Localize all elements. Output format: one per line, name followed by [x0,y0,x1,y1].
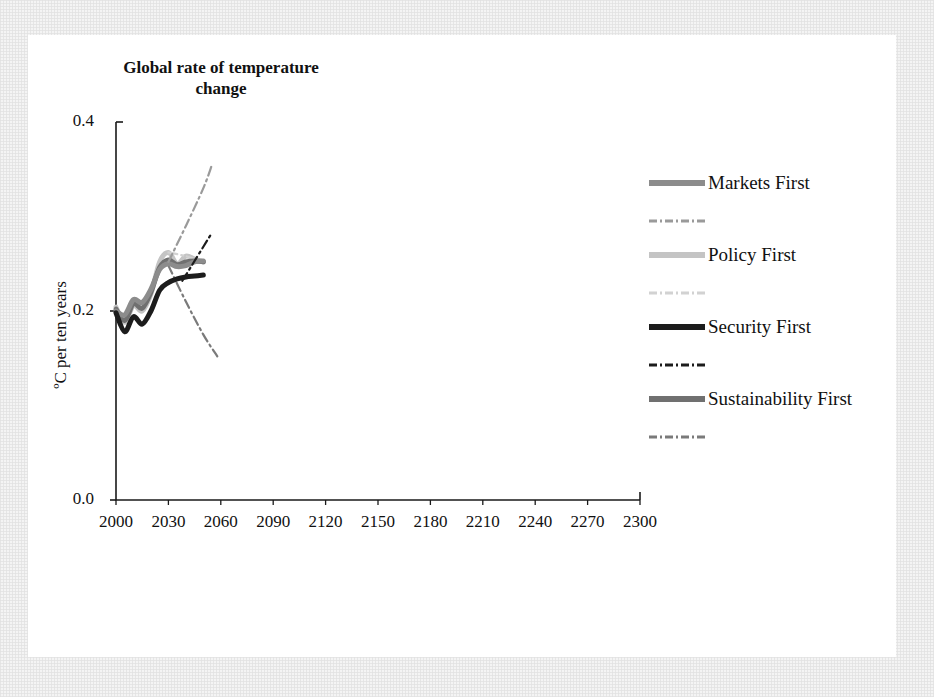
legend-label: Markets First [708,172,810,194]
legend-swatch-icon [648,392,706,406]
legend-label: Sustainability First [708,388,852,410]
chart-plot-area: Global rate of temperature change ºC per… [28,35,896,657]
legend-swatch-icon [648,358,706,368]
legend-swatch-icon [648,176,706,190]
legend-item-6[interactable]: Sustainability First [648,381,896,417]
legend-item-7[interactable] [648,417,896,453]
chart-legend: Markets FirstPolicy FirstSecurity FirstS… [648,165,896,453]
legend-item-0[interactable]: Markets First [648,165,896,201]
legend-item-4[interactable]: Security First [648,309,896,345]
legend-swatch-icon [648,320,706,334]
series-line-markets-first-range [168,165,212,262]
legend-item-2[interactable]: Policy First [648,237,896,273]
legend-item-3[interactable] [648,273,896,309]
legend-item-5[interactable] [648,345,896,381]
legend-swatch-icon [648,286,706,296]
figure-panel: Global rate of temperature change ºC per… [28,35,896,657]
legend-swatch-icon [648,214,706,224]
legend-label: Security First [708,316,811,338]
legend-label: Policy First [708,244,796,266]
legend-item-1[interactable] [648,201,896,237]
chart-axes [116,122,640,500]
legend-swatch-icon [648,430,706,440]
legend-swatch-icon [648,248,706,262]
